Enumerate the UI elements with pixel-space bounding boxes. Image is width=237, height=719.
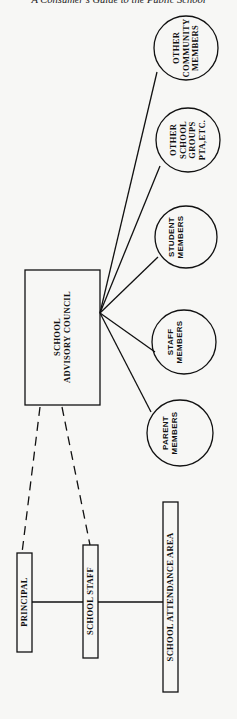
- label-parent: PARENT MEMBERS: [161, 412, 179, 455]
- label-staff: STAFF MEMBERS: [166, 321, 184, 364]
- circle-student: [155, 206, 217, 268]
- principal-label: PRINCIPAL: [20, 577, 30, 626]
- circle-staff: [152, 310, 216, 374]
- council-label: SCHOOL ADVISORY COUNCIL: [53, 291, 72, 383]
- connector-parent: [100, 313, 151, 412]
- attendance-area-label: SCHOOL ATTENDANCE AREA: [166, 533, 176, 662]
- label-student: STUDENT MEMBERS: [167, 216, 185, 259]
- dashed-connector-staff: [62, 407, 90, 545]
- connector-student: [100, 257, 158, 313]
- connector-community: [100, 72, 157, 313]
- org-diagram: [0, 0, 237, 719]
- connector-staff: [100, 313, 155, 352]
- school-staff-label: SCHOOL STAFF: [86, 567, 96, 635]
- label-other-school-groups: OTHER SCHOOL GROUPS PTA,ETC.: [169, 120, 207, 161]
- circle-parent: [147, 400, 213, 466]
- dashed-connector-principal: [22, 407, 40, 553]
- label-other-community: OTHER COMMUNITY MEMBERS: [172, 19, 201, 78]
